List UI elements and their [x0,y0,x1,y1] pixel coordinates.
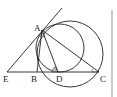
tangent-line-EA [7,8,62,72]
label-B: B [31,74,37,84]
label-A: A [34,23,41,33]
geometry-diagram: A E B D C [0,0,117,97]
label-E: E [3,74,9,84]
segment-AC [42,30,99,72]
label-D: D [56,74,63,84]
label-C: C [100,74,106,84]
outer-circle [37,21,103,87]
page-edge-divider [111,10,113,97]
